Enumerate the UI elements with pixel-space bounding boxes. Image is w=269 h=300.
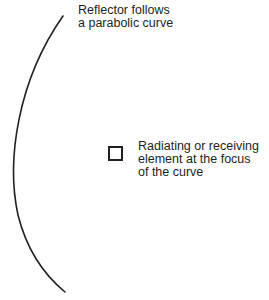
parabolic-reflector-curve — [14, 16, 65, 292]
focus-element-label: Radiating or receiving element at the fo… — [138, 140, 259, 179]
parabolic-reflector-diagram: Reflector follows a parabolic curve Radi… — [0, 0, 269, 300]
focus-element-label-line-3: of the curve — [138, 166, 259, 179]
reflector-label: Reflector follows a parabolic curve — [78, 4, 173, 30]
reflector-label-line-2: a parabolic curve — [78, 17, 173, 30]
focus-element-square — [108, 146, 123, 161]
